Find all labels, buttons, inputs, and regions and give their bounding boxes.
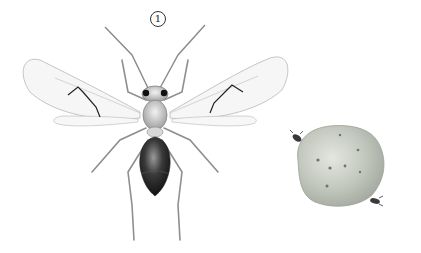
right-wings — [170, 57, 288, 126]
left-eye — [143, 90, 149, 96]
gall-illustration — [290, 126, 384, 207]
thorax — [143, 100, 167, 130]
left-wings — [23, 59, 140, 126]
illustration-plate: 1 — [0, 0, 421, 253]
wasp-illustration — [0, 0, 421, 253]
right-eye — [161, 90, 167, 96]
antennae — [105, 25, 205, 88]
abdomen — [140, 137, 170, 196]
gall-insect-right — [369, 196, 383, 206]
propodeum — [147, 127, 163, 137]
